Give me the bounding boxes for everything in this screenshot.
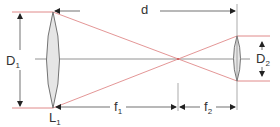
label-f2-sub: 2 [208,107,212,116]
label-f1: f1 [114,100,122,116]
label-L1-sub: 1 [56,118,60,127]
label-D1-sub: 1 [15,61,19,70]
lens-1 [47,12,60,108]
label-d: d [141,3,148,16]
label-f1-sub: 1 [118,107,122,116]
label-D1: D1 [6,54,20,70]
label-f2: f2 [204,100,212,116]
optics-diagram [0,0,280,127]
label-L1: L1 [49,111,61,127]
label-D2-sub: 2 [265,59,269,68]
label-D2: D2 [256,52,270,68]
focal-point [177,58,179,60]
label-D1-main: D [6,53,15,68]
label-D2-main: D [256,51,265,66]
